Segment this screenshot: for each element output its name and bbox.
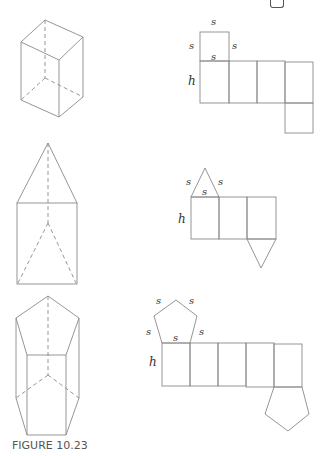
pentagonal-prism-net: s s s s s h (146, 295, 309, 431)
label-s: s (186, 176, 191, 187)
label-s: s (218, 176, 223, 187)
label-h: h (149, 355, 157, 369)
rectangular-prism-net: s s s s h (188, 16, 313, 133)
label-s: s (211, 51, 216, 62)
label-s: s (202, 186, 207, 197)
label-h: h (188, 74, 196, 88)
label-s: s (199, 326, 204, 337)
figure-canvas: s s s s h s s s h (0, 0, 331, 456)
label-s: s (189, 40, 194, 51)
pentagonal-prism-solid (16, 296, 79, 435)
triangular-prism-net: s s s h (178, 168, 276, 268)
label-s: s (173, 332, 178, 343)
figure-caption: FIGURE 10.23 (12, 439, 88, 452)
triangular-prism-solid (17, 143, 77, 284)
label-s: s (189, 295, 194, 306)
label-s: s (156, 295, 161, 306)
label-s: s (211, 16, 216, 27)
rectangular-prism-solid (21, 20, 83, 117)
label-s: s (146, 326, 151, 337)
label-h: h (178, 212, 186, 226)
label-s: s (232, 40, 237, 51)
